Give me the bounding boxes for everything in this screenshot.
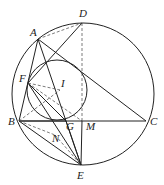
- label-g: G: [66, 120, 74, 132]
- label-c: C: [150, 115, 158, 127]
- segment-me: [81, 121, 82, 165]
- label-e: E: [76, 169, 84, 181]
- label-m: M: [85, 120, 96, 132]
- circumcircle: [12, 23, 154, 165]
- label-d: D: [78, 7, 87, 19]
- segment-bn: [19, 121, 55, 135]
- geometry-diagram: ABCDEFGIMN: [0, 0, 164, 185]
- label-i: I: [60, 77, 66, 89]
- label-n: N: [51, 132, 60, 144]
- label-b: B: [8, 115, 15, 127]
- label-a: A: [29, 26, 37, 38]
- solid-segments: [19, 23, 146, 165]
- label-f: F: [18, 72, 26, 84]
- point-labels: ABCDEFGIMN: [8, 7, 158, 181]
